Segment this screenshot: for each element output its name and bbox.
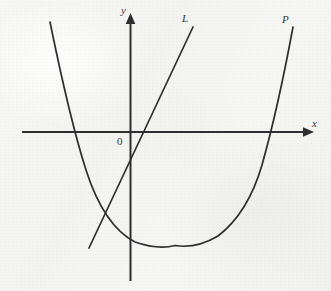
curve-label-l: L	[182, 13, 188, 24]
x-axis-label: x	[312, 118, 317, 129]
y-axis-label: y	[121, 5, 126, 16]
y-axis-arrowhead-icon	[126, 13, 136, 24]
curve-label-p: P	[282, 14, 289, 25]
parabola-curve-p	[50, 22, 293, 247]
line-curve-l	[89, 27, 193, 248]
origin-label: 0	[117, 136, 123, 147]
graph-plot-area	[0, 0, 331, 291]
graph-figure: y x L P 0	[0, 0, 331, 291]
